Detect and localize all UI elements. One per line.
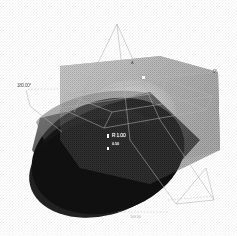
annotation-apex-point-label: A [131, 60, 133, 65]
lower-right-triangle [176, 168, 214, 204]
leader-lower-right [168, 196, 216, 200]
annotation-face-sub-label: 0.50 [112, 141, 119, 146]
render-vector-layer [0, 0, 237, 236]
annotation-right-angle-label: 0° [213, 69, 217, 74]
vertex-marker-top [142, 76, 145, 79]
annotation-bottom-dimension-label: 100.00 [130, 214, 141, 219]
annotation-face-radius-label: R 1.00 [112, 133, 126, 138]
vertex-marker-face-upper [107, 134, 109, 138]
figure-canvas: 180.00° 0° R 1.00 0.50 100.00 A [0, 0, 237, 236]
annotation-left-angle-label: 180.00° [17, 83, 31, 88]
vertex-marker-face-lower [107, 147, 109, 150]
